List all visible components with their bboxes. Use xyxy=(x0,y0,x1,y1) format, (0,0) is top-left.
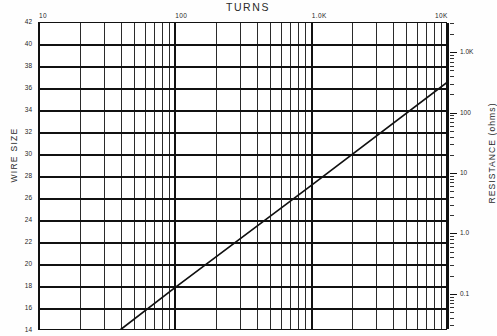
y2-tick-major xyxy=(450,52,457,53)
y2-tick-minor xyxy=(450,94,454,95)
chart-title: TURNS xyxy=(0,1,496,13)
x-tick-label: 100 xyxy=(175,12,187,19)
y2-tick-minor xyxy=(450,300,454,301)
y2-tick-minor xyxy=(450,176,454,177)
y2-tick-minor xyxy=(450,257,454,258)
gridline-y-major xyxy=(39,44,446,46)
y2-tick-minor xyxy=(450,265,454,266)
gridline-y-major xyxy=(39,308,446,310)
y2-tick-label: 10 xyxy=(460,169,467,176)
plot-area xyxy=(38,22,447,330)
y2-tick-minor xyxy=(450,239,454,240)
y2-tick-minor xyxy=(450,325,454,326)
y2-tick-minor xyxy=(450,179,454,180)
y2-tick-minor xyxy=(450,115,454,116)
y-tick-label: 32 xyxy=(16,128,32,135)
y2-tick-label: 100 xyxy=(460,109,471,116)
y-tick-label: 38 xyxy=(16,62,32,69)
y-tick-label: 20 xyxy=(16,260,32,267)
y2-tick-minor xyxy=(450,76,454,77)
y2-tick-minor xyxy=(450,137,454,138)
y2-tick-minor xyxy=(450,243,454,244)
gridline-x-major xyxy=(447,23,449,329)
y-tick-label: 42 xyxy=(16,18,32,25)
y2-tick-minor xyxy=(450,58,454,59)
y2-tick-minor xyxy=(450,55,454,56)
y2-tick-minor xyxy=(450,197,454,198)
y2-tick-label: 1.0K xyxy=(460,48,473,55)
y-tick-label: 26 xyxy=(16,194,32,201)
y-tick-label: 34 xyxy=(16,106,32,113)
y2-tick-minor xyxy=(450,23,454,24)
gridline-y-major xyxy=(39,110,446,112)
y2-tick-minor xyxy=(450,307,454,308)
y-tick-label: 18 xyxy=(16,282,32,289)
y2-tick-minor xyxy=(450,191,454,192)
y2-tick-major xyxy=(450,294,457,295)
y2-tick-minor xyxy=(450,118,454,119)
y2-tick-minor xyxy=(450,34,454,35)
gridline-y-major xyxy=(39,286,446,288)
y2-tick-minor xyxy=(450,122,454,123)
gridline-y-major xyxy=(39,88,446,90)
y2-tick-major xyxy=(450,233,457,234)
y2-tick-minor xyxy=(450,276,454,277)
gridline-y-major xyxy=(39,132,446,134)
y2-tick-minor xyxy=(450,126,454,127)
gridline-y-major xyxy=(39,264,446,266)
y2-tick-minor xyxy=(450,155,454,156)
y2-tick-minor xyxy=(450,84,454,85)
gridline-y-major xyxy=(39,154,446,156)
y2-tick-minor xyxy=(450,62,454,63)
y2-tick-minor xyxy=(450,70,454,71)
y2-tick-minor xyxy=(450,303,454,304)
y2-tick-label: 0.1 xyxy=(460,290,469,297)
y-tick-label: 28 xyxy=(16,172,32,179)
y2-tick-minor xyxy=(450,131,454,132)
y2-tick-minor xyxy=(450,205,454,206)
y-tick-label: 30 xyxy=(16,150,32,157)
y2-tick-major xyxy=(450,113,457,114)
x-tick-label: 10 xyxy=(39,12,47,19)
y2-tick-minor xyxy=(450,312,454,313)
y2-tick-label: 1.0 xyxy=(460,229,469,236)
y2-tick-minor xyxy=(450,252,454,253)
x-tick-label: 10K xyxy=(435,12,448,19)
y2-tick-minor xyxy=(450,318,454,319)
y-tick-label: 14 xyxy=(16,326,32,333)
y-axis-label-right: RESISTANCE (ohms) xyxy=(487,98,497,208)
y2-tick-minor xyxy=(450,215,454,216)
y2-tick-minor xyxy=(450,297,454,298)
y2-tick-minor xyxy=(450,144,454,145)
y-tick-label: 40 xyxy=(16,40,32,47)
gridline-y-major xyxy=(39,176,446,178)
y-tick-label: 24 xyxy=(16,216,32,223)
y2-tick-minor xyxy=(450,236,454,237)
gridline-y-major xyxy=(39,242,446,244)
y2-tick-minor xyxy=(450,247,454,248)
gridline-y-major xyxy=(39,220,446,222)
y2-tick-minor xyxy=(450,66,454,67)
y-tick-label: 16 xyxy=(16,304,32,311)
y-tick-label: 22 xyxy=(16,238,32,245)
y-tick-label: 36 xyxy=(16,84,32,91)
y2-tick-minor xyxy=(450,182,454,183)
gridline-y-major xyxy=(39,66,446,68)
y2-tick-major xyxy=(450,173,457,174)
x-tick-label: 1.0K xyxy=(312,12,327,19)
gridline-y-major xyxy=(39,198,446,200)
y2-tick-minor xyxy=(450,186,454,187)
